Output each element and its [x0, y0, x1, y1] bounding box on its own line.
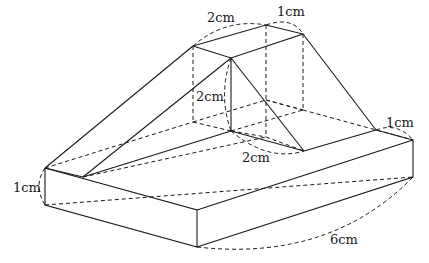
label-base-height: 1cm	[13, 180, 41, 195]
label-top-width: 2cm	[207, 10, 235, 25]
label-right-depth: 1cm	[386, 115, 414, 130]
diagram-canvas: 2cm 1cm 2cm 2cm 1cm 1cm 6cm	[0, 0, 429, 263]
base-slab	[45, 130, 413, 247]
solid-figure: 2cm 1cm 2cm 2cm 1cm 1cm 6cm	[0, 0, 429, 263]
label-inner-depth: 2cm	[242, 150, 270, 165]
label-base-length: 6cm	[330, 232, 358, 247]
hidden-edges	[45, 25, 413, 205]
label-column-height: 2cm	[196, 89, 224, 104]
label-top-depth: 1cm	[277, 4, 305, 19]
